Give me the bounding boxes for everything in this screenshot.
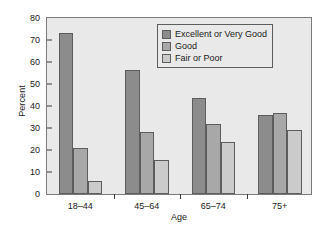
bar <box>206 124 221 194</box>
x-tick-mark <box>114 194 115 199</box>
y-tick-label: 10 <box>30 167 47 177</box>
legend-swatch-icon <box>162 30 171 39</box>
legend-item: Good <box>162 40 267 52</box>
y-tick-label: 60 <box>30 57 47 67</box>
bar <box>258 115 273 194</box>
bar-group <box>47 18 114 194</box>
legend-item: Excellent or Very Good <box>162 28 267 40</box>
x-group-label: 45–64 <box>134 201 159 211</box>
bar <box>287 130 302 194</box>
x-tick-mark <box>180 194 181 199</box>
bar <box>154 160 169 194</box>
y-tick-label: 70 <box>30 35 47 45</box>
x-group-label: 75+ <box>272 201 287 211</box>
y-tick-mark <box>47 128 52 129</box>
y-tick-mark <box>47 106 52 107</box>
y-tick-label: 80 <box>30 13 47 23</box>
bar <box>59 33 74 194</box>
y-tick-mark <box>47 62 52 63</box>
bar <box>192 98 207 194</box>
x-tick-mark <box>247 194 248 199</box>
bar-chart: Percent 01020304050607080 18–4445–6465–7… <box>0 0 318 231</box>
x-group-label: 18–44 <box>68 201 93 211</box>
y-tick-label: 20 <box>30 145 47 155</box>
legend-label: Fair or Poor <box>175 53 223 64</box>
bar <box>88 181 103 194</box>
y-tick-mark <box>47 40 52 41</box>
x-axis-title: Age <box>46 212 312 222</box>
legend-swatch-icon <box>162 42 171 51</box>
y-tick-label: 30 <box>30 123 47 133</box>
y-axis-title: Percent <box>17 51 27 151</box>
y-tick-mark <box>47 172 52 173</box>
y-tick-label: 50 <box>30 79 47 89</box>
y-tick-label: 0 <box>35 189 47 199</box>
legend-swatch-icon <box>162 54 171 63</box>
legend: Excellent or Very GoodGoodFair or Poor <box>157 24 273 68</box>
legend-label: Excellent or Very Good <box>175 29 267 40</box>
bar <box>140 132 155 194</box>
bar <box>125 70 140 194</box>
legend-label: Good <box>175 41 197 52</box>
y-tick-mark <box>47 150 52 151</box>
x-group-label: 65–74 <box>201 201 226 211</box>
bar <box>273 113 288 194</box>
y-tick-label: 40 <box>30 101 47 111</box>
bar <box>73 148 88 194</box>
legend-item: Fair or Poor <box>162 52 267 64</box>
y-tick-mark <box>47 84 52 85</box>
bar <box>221 142 236 194</box>
